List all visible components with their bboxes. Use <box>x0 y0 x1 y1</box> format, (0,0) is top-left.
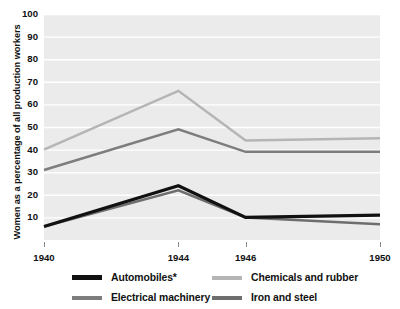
x-tick-mark <box>246 242 247 247</box>
x-tick-label: 1944 <box>168 252 189 263</box>
legend-swatch <box>72 275 102 280</box>
legend-label: Electrical machinery <box>111 292 210 303</box>
line-chart: Women as a percentage of all production … <box>0 0 400 309</box>
plot-area <box>0 0 400 309</box>
legend-label: Automobiles* <box>111 272 177 283</box>
x-tick-mark <box>380 242 381 247</box>
legend-swatch <box>72 296 102 300</box>
x-tick-mark <box>178 242 179 247</box>
x-tick-label: 1940 <box>33 252 54 263</box>
x-tick-label: 1950 <box>369 252 390 263</box>
chart-legend: Automobiles*Chemicals and rubberElectric… <box>0 270 400 309</box>
legend-swatch <box>212 276 242 280</box>
legend-item: Electrical machinery <box>72 292 210 303</box>
legend-label: Chemicals and rubber <box>251 272 358 283</box>
legend-swatch <box>212 296 242 300</box>
legend-item: Chemicals and rubber <box>212 272 358 283</box>
legend-label: Iron and steel <box>251 292 317 303</box>
legend-item: Iron and steel <box>212 292 317 303</box>
legend-item: Automobiles* <box>72 272 177 283</box>
x-tick-mark <box>44 242 45 247</box>
x-tick-label: 1946 <box>235 252 256 263</box>
